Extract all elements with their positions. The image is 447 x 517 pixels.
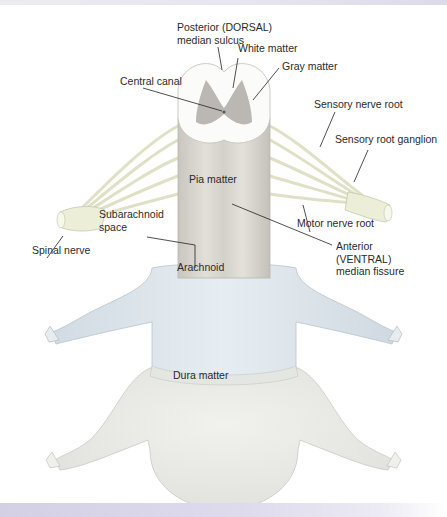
label-dura-matter: Dura matter <box>173 369 228 382</box>
label-line: (VENTRAL) <box>336 253 404 266</box>
label-line: space <box>99 221 164 234</box>
label-white-matter: White matter <box>238 42 298 55</box>
label-line: median fissure <box>336 265 404 278</box>
dura-matter <box>46 368 401 510</box>
label-anterior-median-fissure: Anterior (VENTRAL) median fissure <box>336 240 404 278</box>
label-sensory-root-ganglion: Sensory root ganglion <box>335 133 437 146</box>
label-line: Posterior (DORSAL) <box>177 21 272 34</box>
label-subarachnoid-space: Subarachnoid space <box>99 208 164 233</box>
label-pia-matter: Pia matter <box>189 173 237 186</box>
spinal-nerve-left <box>57 206 105 231</box>
label-central-canal: Central canal <box>120 75 182 88</box>
label-motor-nerve-root: Motor nerve root <box>297 217 374 230</box>
arachnoid-layer <box>45 264 402 386</box>
label-line: Anterior <box>336 240 404 253</box>
label-spinal-nerve: Spinal nerve <box>32 244 90 257</box>
cord-cross-section <box>178 64 270 143</box>
footer-strip <box>0 503 447 517</box>
spinal-cord-pia <box>178 118 270 278</box>
label-line: Subarachnoid <box>99 208 164 221</box>
label-arachnoid: Arachnoid <box>177 261 224 274</box>
label-sensory-nerve-root: Sensory nerve root <box>314 98 403 111</box>
label-gray-matter: Gray matter <box>282 60 337 73</box>
